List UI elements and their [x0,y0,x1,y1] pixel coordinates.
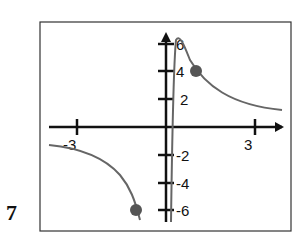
y-tick-label: 4 [176,63,184,80]
x-tick-label: -3 [63,136,76,153]
y-tick-label: -2 [176,147,189,164]
y-tick-label: -6 [176,202,189,219]
right-branch [171,38,282,222]
y-tick-label: 2 [180,91,188,108]
y-tick-label: -4 [176,175,189,192]
y-axis-arrow-icon [161,32,171,42]
graph: -3 3 6 4 2 -2 -4 -6 [0,0,307,241]
point-1-4 [190,65,202,77]
x-tick-label: 3 [244,136,252,153]
point-neg1-neg6 [130,204,142,216]
x-axis-arrow-icon [275,122,284,132]
left-branch [49,145,140,220]
